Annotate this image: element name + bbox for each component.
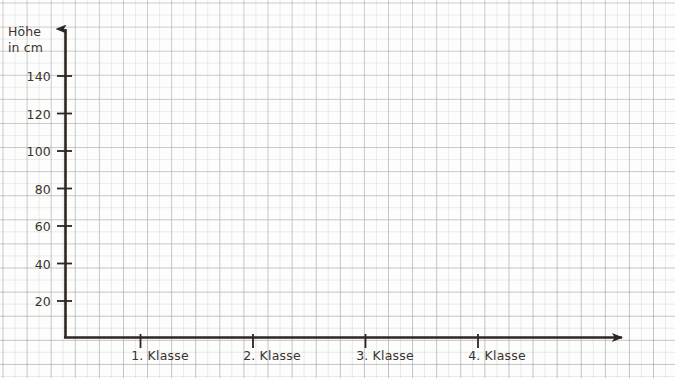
- y-tick-label-60: 60: [5, 219, 51, 234]
- y-tick-label-40: 40: [5, 257, 51, 272]
- y-axis-title-line2: in cm: [8, 40, 43, 56]
- x-tick-marks: [141, 334, 479, 348]
- y-tick-label-100: 100: [5, 144, 51, 159]
- x-tick-label-klasse-4: 4. Klasse: [442, 348, 552, 363]
- x-tick-label-klasse-1: 1. Klasse: [105, 348, 215, 363]
- y-axis-title: Höhe in cm: [8, 24, 43, 55]
- y-tick-label-20: 20: [5, 294, 51, 309]
- chart-canvas: Höhe in cm 140 120 100 80 60 40 20 1. Kl…: [0, 0, 675, 378]
- axis-system: [0, 0, 675, 378]
- y-axis-title-line1: Höhe: [8, 24, 43, 40]
- x-tick-label-klasse-2: 2. Klasse: [217, 348, 327, 363]
- y-tick-label-140: 140: [5, 69, 51, 84]
- x-tick-label-klasse-3: 3. Klasse: [330, 348, 440, 363]
- y-tick-label-80: 80: [5, 182, 51, 197]
- y-tick-label-120: 120: [5, 107, 51, 122]
